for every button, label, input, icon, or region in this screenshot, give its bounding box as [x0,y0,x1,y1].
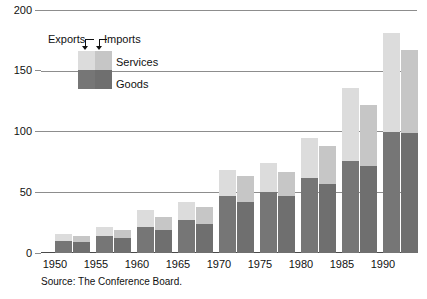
y-tick-label-150: 150 [14,65,32,76]
y-tick-mark-0 [35,253,41,254]
legend-swatch-exports-services [78,51,95,70]
segment-services-imports-1980 [319,146,336,184]
segment-services-exports-1970 [219,170,236,196]
legend-swatch-imports-services [95,51,112,70]
bar-group-1990[interactable] [383,10,418,253]
segment-services-imports-1970 [237,176,254,202]
segment-goods-imports-1955 [114,238,131,253]
segment-services-imports-1990 [401,50,418,133]
segment-services-exports-1955 [96,227,113,236]
legend-label-imports: Imports [104,33,141,45]
segment-goods-imports-1970 [237,202,254,253]
y-tick-label-100: 100 [14,126,32,137]
y-tick-label-200: 200 [14,5,32,16]
segment-goods-imports-1965 [196,224,213,253]
bar-group-1985[interactable] [342,10,377,253]
legend-swatch-imports-goods [95,70,112,89]
segment-services-imports-1950 [73,236,90,242]
y-axis: 200 150 100 50 0 [0,0,41,299]
segment-goods-exports-1975 [260,192,277,253]
segment-services-imports-1985 [360,105,377,166]
segment-services-exports-1950 [55,234,72,241]
segment-goods-exports-1970 [219,196,236,253]
segment-goods-exports-1990 [383,132,400,253]
segment-goods-exports-1960 [137,227,154,253]
segment-goods-exports-1965 [178,220,195,253]
segment-services-imports-1975 [278,172,295,196]
segment-services-exports-1980 [301,138,318,178]
segment-services-exports-1990 [383,33,400,132]
source-note: Source: The Conference Board. [41,276,182,288]
segment-services-imports-1965 [196,207,213,224]
legend-label-goods: Goods [116,78,148,90]
segment-services-imports-1955 [114,230,131,238]
bar-group-1975[interactable] [260,10,295,253]
segment-goods-imports-1960 [155,230,172,253]
segment-goods-imports-1980 [319,184,336,253]
segment-goods-exports-1980 [301,178,318,253]
legend-arrow-imports-icon [96,46,102,50]
segment-goods-imports-1950 [73,242,90,253]
segment-services-exports-1985 [342,88,359,161]
legend-label-exports: Exports [48,33,85,45]
legend-arrow-exports-icon [82,46,88,50]
segment-services-exports-1975 [260,163,277,192]
bar-group-1980[interactable] [301,10,336,253]
segment-services-exports-1965 [178,202,195,220]
segment-goods-imports-1975 [278,196,295,253]
y-tick-label-50: 50 [20,187,32,198]
segment-goods-imports-1985 [360,166,377,253]
bar-group-1970[interactable] [219,10,254,253]
legend-swatch-exports-goods [78,70,95,89]
segment-goods-exports-1985 [342,161,359,253]
segment-goods-imports-1990 [401,133,418,253]
segment-goods-exports-1955 [96,236,113,253]
legend-swatch-block [78,51,112,89]
segment-goods-exports-1950 [55,241,72,253]
chart-container: 200 150 100 50 0 [0,0,427,299]
legend-label-services: Services [116,56,158,68]
bar-group-1960[interactable] [137,10,172,253]
legend-leader-exports-horizontal [86,39,94,40]
x-tick-label-1990: 1990 [353,258,413,270]
bar-group-1965[interactable] [178,10,213,253]
segment-services-imports-1960 [155,217,172,230]
segment-services-exports-1960 [137,210,154,227]
